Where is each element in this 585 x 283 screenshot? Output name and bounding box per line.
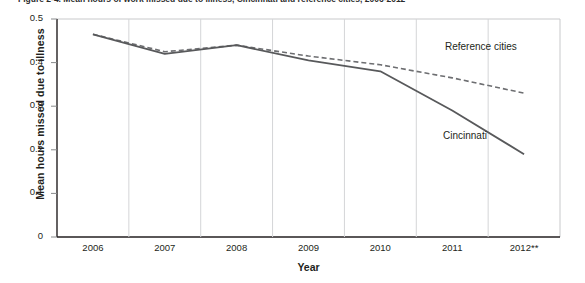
x-axis-tick-label: 2008 xyxy=(201,242,273,253)
x-axis-tick-label: 2006 xyxy=(57,242,129,253)
y-axis-tick-label: 0.2 xyxy=(9,143,43,154)
x-axis-tick-label: 2010 xyxy=(344,242,416,253)
series-label-reference-cities: Reference cities xyxy=(445,41,517,52)
x-axis-tick-label: 2012** xyxy=(488,242,560,253)
figure-container: Figure 2-4. Mean hours of work missed du… xyxy=(0,0,585,283)
y-axis-tick-label: 0 xyxy=(9,230,43,241)
y-axis-tick-label: 0.4 xyxy=(9,56,43,67)
y-axis-ticks xyxy=(51,19,57,237)
y-axis-tick-label: 0.3 xyxy=(9,99,43,110)
y-axis-tick-label: 0.5 xyxy=(9,12,43,23)
series-label-cincinnati: Cincinnati xyxy=(443,130,487,141)
x-axis-tick-label: 2011 xyxy=(416,242,488,253)
x-axis-tick-label: 2007 xyxy=(129,242,201,253)
y-axis-tick-label: 0.1 xyxy=(9,186,43,197)
x-axis-tick-label: 2009 xyxy=(273,242,345,253)
